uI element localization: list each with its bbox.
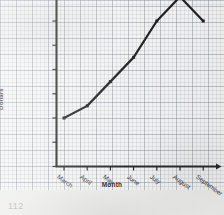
x-tick-label: April <box>79 173 93 186</box>
x-tick-label: August <box>172 173 192 190</box>
x-tick-label: July <box>149 173 162 185</box>
x-axis-title: Month <box>102 181 123 188</box>
x-tick-label: September <box>195 173 224 197</box>
x-tick-label: March <box>56 173 74 189</box>
x-tick-label: June <box>125 173 140 187</box>
page-number: 112 <box>8 201 24 211</box>
y-axis-title: Dollars <box>0 88 4 110</box>
